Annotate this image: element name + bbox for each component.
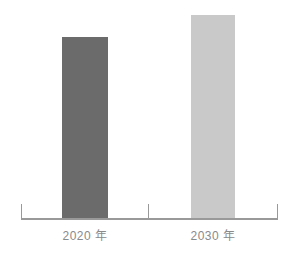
bar-chart: 2020 年 2030 年 — [0, 0, 293, 258]
bar-2020 — [62, 37, 108, 218]
x-axis-tick-left — [21, 204, 22, 218]
x-axis-tick-middle — [148, 204, 149, 218]
x-axis-label-2030: 2030 年 — [168, 229, 258, 243]
x-axis-tick-right — [277, 204, 278, 218]
x-axis-label-2020: 2020 年 — [40, 229, 130, 243]
bar-2030 — [191, 15, 235, 218]
x-axis-line — [21, 218, 278, 220]
